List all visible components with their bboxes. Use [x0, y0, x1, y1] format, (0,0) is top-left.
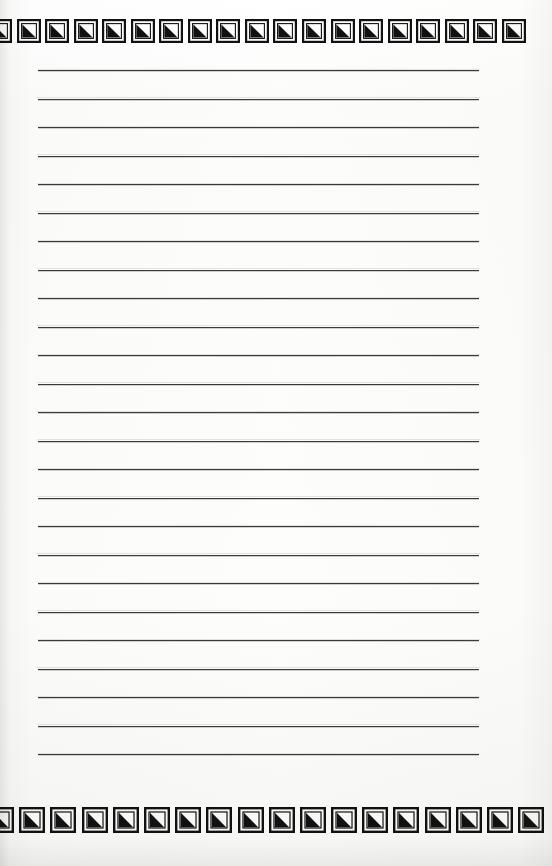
square-with-filled-triangle-icon — [45, 19, 67, 43]
ruled-line-stroke — [38, 612, 479, 613]
square-with-filled-triangle-icon — [74, 19, 96, 43]
ruled-line — [38, 555, 479, 584]
ruled-line — [38, 726, 479, 755]
square-with-filled-triangle-icon — [113, 807, 137, 833]
ruled-line-stroke — [38, 127, 479, 128]
ruled-line-stroke — [38, 213, 479, 214]
square-with-filled-triangle-icon — [393, 807, 417, 833]
square-with-filled-triangle-icon — [388, 19, 410, 43]
ruled-line — [38, 469, 479, 498]
ruled-line — [38, 640, 479, 669]
ruled-line — [38, 99, 479, 128]
left-edge-shadow — [0, 0, 10, 866]
square-with-filled-triangle-icon — [331, 807, 355, 833]
ruled-line-stroke — [38, 583, 479, 584]
square-with-filled-triangle-icon — [144, 807, 168, 833]
ruled-line — [38, 355, 479, 384]
ruled-line-stroke — [38, 726, 479, 727]
square-with-filled-triangle-icon — [487, 807, 511, 833]
ruled-line — [38, 127, 479, 156]
square-with-filled-triangle-icon — [518, 807, 542, 833]
ruled-line-stroke — [38, 355, 479, 356]
ruled-line-stroke — [38, 498, 479, 499]
ruled-line — [38, 184, 479, 213]
square-with-filled-triangle-icon — [206, 807, 230, 833]
square-with-filled-triangle-icon — [102, 19, 124, 43]
square-with-filled-triangle-icon — [82, 807, 106, 833]
square-with-filled-triangle-icon — [19, 807, 43, 833]
square-with-filled-triangle-icon — [50, 807, 74, 833]
ruled-line-stroke — [38, 270, 479, 271]
ruled-line — [38, 327, 479, 356]
ruled-line — [38, 669, 479, 698]
square-with-filled-triangle-icon — [300, 807, 324, 833]
square-with-filled-triangle-icon — [17, 19, 39, 43]
square-with-filled-triangle-icon — [456, 807, 480, 833]
ruled-line — [38, 156, 479, 185]
ruled-line-stroke — [38, 241, 479, 242]
ruled-line — [38, 612, 479, 641]
ruled-line — [38, 70, 479, 99]
ruled-line-stroke — [38, 298, 479, 299]
square-with-filled-triangle-icon — [159, 19, 181, 43]
ruled-line-stroke — [38, 526, 479, 527]
ruled-line-stroke — [38, 441, 479, 442]
square-with-filled-triangle-icon — [502, 19, 524, 43]
top-border-row — [0, 16, 552, 46]
ruled-line — [38, 697, 479, 726]
ruled-line-stroke — [38, 99, 479, 100]
ruled-line-stroke — [38, 184, 479, 185]
square-with-filled-triangle-icon — [302, 19, 324, 43]
square-with-filled-triangle-icon — [0, 19, 10, 43]
ruled-line — [38, 526, 479, 555]
square-with-filled-triangle-icon — [0, 807, 12, 833]
square-with-filled-triangle-icon — [238, 807, 262, 833]
ruled-line-stroke — [38, 754, 479, 755]
square-with-filled-triangle-icon — [245, 19, 267, 43]
ruled-line-stroke — [38, 384, 479, 385]
ruled-line-stroke — [38, 697, 479, 698]
ruled-line-stroke — [38, 555, 479, 556]
ruled-line — [38, 441, 479, 470]
square-with-filled-triangle-icon — [331, 19, 353, 43]
ruled-line — [38, 583, 479, 612]
square-with-filled-triangle-icon — [188, 19, 210, 43]
square-with-filled-triangle-icon — [416, 19, 438, 43]
ruled-line-stroke — [38, 327, 479, 328]
notepad-page — [0, 0, 552, 866]
square-with-filled-triangle-icon — [131, 19, 153, 43]
ruled-line — [38, 754, 479, 783]
bottom-border-row — [0, 804, 552, 836]
ruled-line-stroke — [38, 70, 479, 71]
ruled-line — [38, 384, 479, 413]
square-with-filled-triangle-icon — [273, 19, 295, 43]
square-with-filled-triangle-icon — [362, 807, 386, 833]
ruled-line — [38, 241, 479, 270]
square-with-filled-triangle-icon — [425, 807, 449, 833]
ruled-line — [38, 270, 479, 299]
square-with-filled-triangle-icon — [359, 19, 381, 43]
ruled-line-stroke — [38, 156, 479, 157]
square-with-filled-triangle-icon — [216, 19, 238, 43]
square-with-filled-triangle-icon — [473, 19, 495, 43]
ruled-line-stroke — [38, 640, 479, 641]
ruled-line — [38, 412, 479, 441]
ruled-lines-area — [38, 70, 479, 783]
square-with-filled-triangle-icon — [175, 807, 199, 833]
ruled-line — [38, 498, 479, 527]
square-with-filled-triangle-icon — [445, 19, 467, 43]
bottom-edge-shadow — [0, 840, 552, 866]
ruled-line — [38, 213, 479, 242]
ruled-line-stroke — [38, 669, 479, 670]
ruled-line-stroke — [38, 412, 479, 413]
ruled-line-stroke — [38, 469, 479, 470]
ruled-line — [38, 298, 479, 327]
square-with-filled-triangle-icon — [269, 807, 293, 833]
